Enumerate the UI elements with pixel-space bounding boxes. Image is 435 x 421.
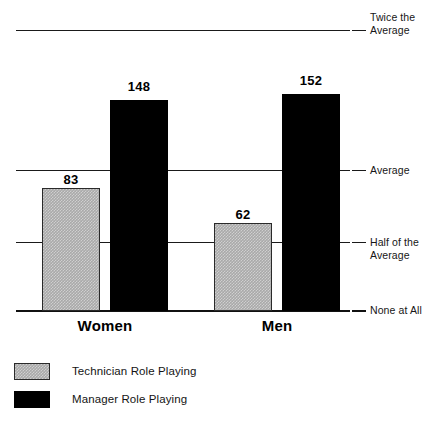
legend-label-manager: Manager Role Playing — [72, 393, 187, 405]
chart-legend: Technician Role Playing Manager Role Pla… — [14, 360, 314, 416]
reference-label-average: Average — [370, 164, 432, 177]
legend-item-technician: Technician Role Playing — [14, 360, 314, 382]
legend-swatch-manager — [14, 391, 50, 408]
bar-chart: Twice the Average Average Half of the Av… — [0, 0, 435, 421]
bar-value-women-technician: 83 — [42, 172, 100, 187]
reference-tick-average — [352, 170, 366, 171]
reference-tick-twice-average — [352, 30, 366, 31]
bar-value-men-technician: 62 — [214, 207, 272, 222]
legend-label-technician: Technician Role Playing — [72, 365, 196, 377]
reference-label-twice-average: Twice the Average — [370, 11, 432, 36]
bar-women-technician — [42, 188, 100, 311]
reference-line-twice-average — [16, 30, 350, 31]
reference-tick-half-average — [352, 242, 366, 243]
reference-tick-none-at-all — [352, 310, 366, 312]
reference-label-half-average: Half of the Average — [370, 236, 432, 261]
bar-men-technician — [214, 223, 272, 311]
bar-value-men-manager: 152 — [282, 73, 340, 88]
category-label-men: Men — [212, 317, 342, 334]
bar-men-manager — [282, 94, 340, 311]
bar-women-manager — [110, 100, 168, 311]
reference-label-none-at-all: None at All — [370, 304, 434, 317]
category-label-women: Women — [40, 317, 170, 334]
legend-swatch-technician — [14, 363, 50, 380]
bar-value-women-manager: 148 — [110, 79, 168, 94]
legend-item-manager: Manager Role Playing — [14, 388, 314, 410]
